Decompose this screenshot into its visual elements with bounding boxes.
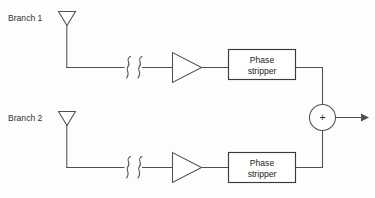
- branch-2-to-combiner-wire: [296, 131, 323, 168]
- branch-2-block-label-line1: Phase: [250, 158, 275, 168]
- arrow-right-icon: [336, 114, 370, 122]
- branch-1-block-label-line2: stripper: [248, 66, 277, 76]
- amplifier-icon: [173, 153, 202, 183]
- branch-1-group: Phase stripper: [59, 12, 323, 105]
- branch-1-to-combiner-wire: [296, 68, 323, 105]
- transmission-line-break-icon: [127, 157, 143, 179]
- branch-2-label: Branch 2: [8, 113, 43, 123]
- diagram-canvas: Phase stripper: [0, 0, 375, 198]
- antenna-icon: [59, 112, 76, 168]
- antenna-icon: [59, 12, 76, 68]
- branch-2-group: Phase stripper: [59, 112, 323, 183]
- branch-1-block-label-line1: Phase: [250, 55, 275, 65]
- amplifier-icon: [173, 53, 202, 83]
- summing-junction-label: +: [319, 111, 325, 123]
- summing-junction-icon: +: [310, 105, 336, 131]
- block-diagram: Phase stripper: [0, 0, 375, 198]
- branch-2-block-label-line2: stripper: [248, 169, 277, 179]
- branch-2-phase-stripper-block: Phase stripper: [229, 153, 296, 183]
- branch-1-phase-stripper-block: Phase stripper: [229, 50, 296, 80]
- transmission-line-break-icon: [127, 57, 143, 79]
- branch-1-label: Branch 1: [8, 13, 43, 23]
